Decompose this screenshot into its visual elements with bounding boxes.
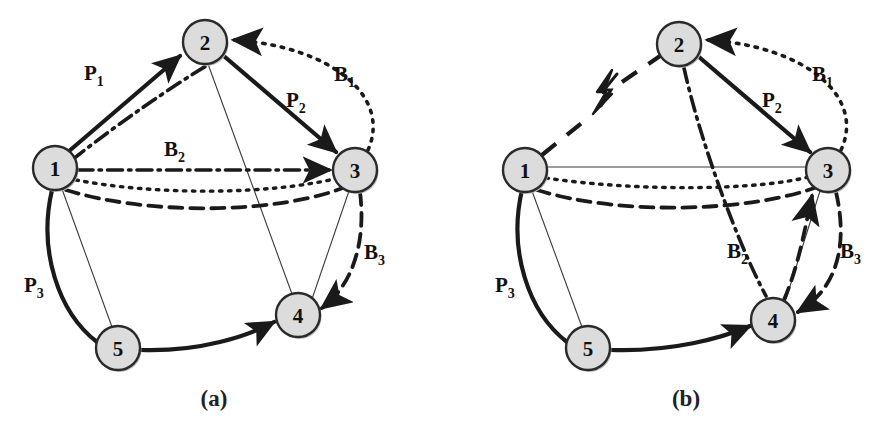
label-p3-subscript: 3 [37,286,44,301]
node-label-5: 5 [583,337,594,361]
label-b2-subscript: 2 [178,150,185,165]
label-p2-subscript: 2 [775,101,782,116]
network-failure-figure: 12345 P1P2P3B1B2B3 (a) [0,0,890,430]
label-p2-subscript: 2 [299,101,306,116]
panel-b-nodes: 12345 [503,22,852,372]
label-p3-subscript: 3 [508,286,515,301]
label-p2: P2 [762,88,782,116]
path-p3-segment-5-4 [611,326,750,350]
node-label-4: 4 [768,309,779,333]
node-label-4: 4 [293,304,304,328]
panel-a-reference-links [62,64,349,327]
label-b1-base: B [334,62,348,86]
node-4[interactable]: 4 [276,293,322,339]
label-b1-base: B [812,62,826,86]
ref-link-1-5 [62,189,112,327]
node-3[interactable]: 3 [806,148,852,194]
label-b1-subscript: 1 [826,75,833,90]
node-2[interactable]: 2 [657,22,703,68]
node-2[interactable]: 2 [183,20,229,66]
node-label-2: 2 [674,33,685,57]
label-b3-subscript: 3 [378,253,385,268]
label-p3: P3 [24,273,44,301]
ref-link-2-4 [208,64,292,294]
label-b2-base: B [164,137,178,161]
label-b3: B3 [364,240,385,268]
label-b1: B1 [812,62,833,90]
label-p1-base: P [84,61,97,85]
label-p1-subscript: 1 [97,74,104,89]
label-p2-base: P [286,88,299,112]
label-p1: P1 [84,61,104,89]
label-b1: B1 [334,62,355,90]
backup-b1-link-3-2 [234,40,373,150]
path-p2-link-2-3 [699,57,810,152]
dashed-link-1-3 [66,186,348,208]
node-label-1: 1 [520,159,531,183]
label-p3-base: P [24,273,37,297]
path-p3-segment-5-4 [141,322,274,350]
node-1[interactable]: 1 [503,148,549,194]
label-b2-subscript: 2 [741,252,748,267]
dotted-link-1-3 [546,177,808,188]
failed-link-1-2-upper [622,56,660,82]
node-3[interactable]: 3 [333,148,379,194]
label-b3-base: B [840,239,854,263]
node-4[interactable]: 4 [751,298,797,344]
node-label-5: 5 [113,337,124,361]
path-p2-link-2-3 [225,57,336,152]
label-p2-base: P [762,88,775,112]
node-1[interactable]: 1 [33,146,79,192]
node-5[interactable]: 5 [96,326,142,372]
label-p2: P2 [286,88,306,116]
label-b2: B2 [727,239,748,267]
backup-b3-link-3-4 [322,192,361,308]
dashed-link-1-3 [537,186,820,208]
ref-link-3-4 [786,191,820,299]
label-b3: B3 [840,239,861,267]
label-b2-base: B [727,239,741,263]
label-p3: P3 [495,273,515,301]
backup-b3-link-3-4 [798,192,841,312]
backup-b1-link-3-2 [708,40,847,150]
label-p3-base: P [495,273,508,297]
dotted-link-1-3 [76,179,334,191]
node-5[interactable]: 5 [566,326,612,372]
node-label-2: 2 [200,31,211,55]
panel-b: 12345 P2P3B1B2B3 (b) [495,22,861,411]
label-b3-base: B [364,240,378,264]
failed-link-1-2 [542,118,588,155]
node-label-3: 3 [823,159,834,183]
panel-b-caption: (b) [672,386,700,411]
label-b2: B2 [164,137,185,165]
backup-leg-4-3 [784,196,812,300]
label-b1-subscript: 1 [348,75,355,90]
panel-a: 12345 P1P2P3B1B2B3 (a) [24,20,385,411]
node-label-3: 3 [350,159,361,183]
panel-a-caption: (a) [201,386,228,411]
panel-b-edge-labels: P2P3B1B2B3 [495,62,861,301]
node-label-1: 1 [50,157,61,181]
label-b3-subscript: 3 [854,252,861,267]
ref-link-1-5 [532,191,582,327]
